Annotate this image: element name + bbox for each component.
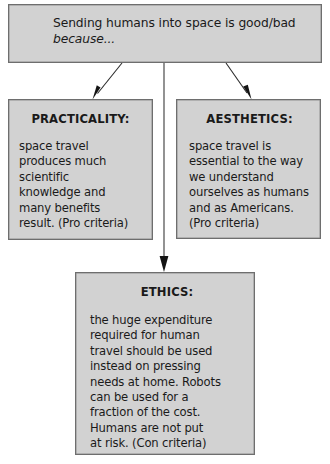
claim-box: Sending humans into space is good/bad be… [8,4,322,63]
body-line: essential to the way [189,154,310,169]
claim-line-1: Sending humans into space is good/bad [53,15,309,31]
body-line: and as Americans. [189,201,310,216]
practicality-heading: PRACTICALITY: [19,112,142,126]
body-line: at risk. (Con criteria) [90,436,244,451]
body-line: scientific [19,170,142,185]
arrow-to-ethics-icon [160,63,169,272]
body-line: Humans are not put [90,421,244,436]
body-line: required for human [90,328,244,343]
practicality-box: PRACTICALITY: space travel produces much… [8,99,153,240]
body-line: fraction of the cost. [90,405,244,420]
arrow-to-aesthetics-icon [226,63,252,100]
aesthetics-box: AESTHETICS: space travel is essential to… [176,99,321,239]
body-line: produces much [19,154,142,169]
body-line: instead on pressing [90,359,244,374]
body-line: travel should be used [90,344,244,359]
ethics-body: the huge expenditure required for human … [90,313,244,452]
body-line: space travel is [189,139,310,154]
argument-diagram: Sending humans into space is good/bad be… [0,0,330,464]
body-line: (Pro criteria) [189,216,310,231]
aesthetics-body: space travel is essential to the way we … [189,139,310,231]
arrow-to-practicality-icon [93,63,123,100]
body-line: many benefits [19,201,142,216]
body-line: knowledge and [19,185,142,200]
ethics-box: ETHICS: the huge expenditure required fo… [75,272,255,455]
body-line: we understand [189,170,310,185]
claim-line-2-because: because... [53,31,309,47]
aesthetics-heading: AESTHETICS: [189,112,310,126]
ethics-heading: ETHICS: [90,285,244,299]
body-line: ourselves as humans [189,185,310,200]
practicality-body: space travel produces much scientific kn… [19,139,142,231]
body-line: the huge expenditure [90,313,244,328]
body-line: needs at home. Robots [90,375,244,390]
body-line: result. (Pro criteria) [19,216,142,231]
body-line: space travel [19,139,142,154]
body-line: can be used for a [90,390,244,405]
